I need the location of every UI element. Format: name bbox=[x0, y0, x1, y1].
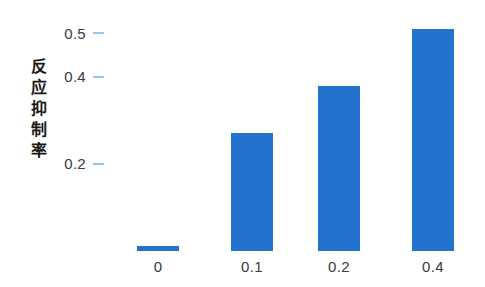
x-axis-tick-label: 0.2 bbox=[309, 258, 369, 275]
bar-chart: 反 应 抑 制 率 0.5 0.4 0.2 0 0.1 0.2 0.4 bbox=[0, 0, 485, 287]
x-axis-tick-label: 0 bbox=[128, 258, 188, 275]
x-axis-tick-label: 0.1 bbox=[222, 258, 282, 275]
bar-series-item bbox=[318, 86, 360, 251]
bar-series-item bbox=[412, 29, 454, 251]
plot-area bbox=[0, 0, 485, 287]
x-axis-tick-label: 0.4 bbox=[403, 258, 463, 275]
bar-series-item bbox=[231, 133, 273, 251]
bar-series-item bbox=[137, 246, 179, 251]
